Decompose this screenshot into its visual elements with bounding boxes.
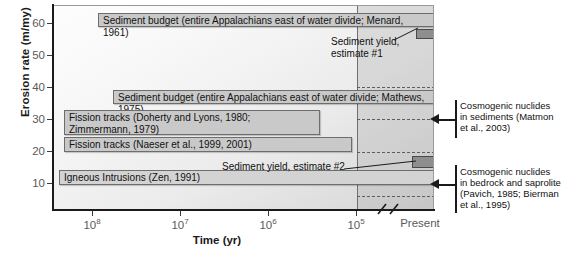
y-axis-line — [52, 4, 54, 211]
cosmo-bedrock-bracket — [455, 165, 457, 213]
x-tick-exp-1e6: 6 — [272, 217, 276, 226]
erosion-rate-vs-time-figure: Erosion rate (m/my) 60 50 40 30 20 10 Se… — [0, 0, 567, 257]
sediment-yield-estimate-2-label: Sediment yield, estimate #2 — [222, 161, 345, 173]
y-tick-label-30: 30 — [19, 114, 45, 124]
x-tick-label-1e6: 106 — [259, 217, 276, 231]
x-tick-base-1e7: 10 — [171, 219, 184, 231]
x-tick-label-1e8: 108 — [83, 217, 100, 231]
y-tick-label-60: 60 — [19, 18, 45, 28]
cosmo-sediments-label: Cosmogenic nuclides in sediments (Matmon… — [460, 100, 553, 133]
cosmo-bedrock-label: Cosmogenic nuclides in bedrock and sapro… — [460, 166, 561, 210]
x-tick-mark-1e7 — [180, 211, 181, 216]
x-tick-exp-1e7: 7 — [184, 217, 188, 226]
x-tick-exp-1e8: 8 — [96, 217, 100, 226]
cosmo-sediments-arrow-icon — [430, 112, 442, 126]
x-tick-label-present: Present — [400, 217, 440, 229]
estimate-1-leader-line — [392, 24, 424, 44]
x-axis-break-icon — [374, 200, 406, 216]
y-tick-label-40: 40 — [19, 82, 45, 92]
x-tick-exp-1e5: 5 — [360, 217, 364, 226]
x-tick-mark-1e8 — [92, 211, 93, 216]
x-tick-label-1e5: 105 — [347, 217, 364, 231]
x-axis-title: Time (yr) — [0, 234, 434, 246]
y-tick-label-20: 20 — [19, 146, 45, 156]
sediment-yield-estimate-1-label: Sediment yield, estimate #1 — [331, 36, 399, 59]
x-tick-mark-1e5 — [356, 211, 357, 216]
cosmo-sediments-bracket — [455, 100, 457, 138]
x-tick-label-1e7: 107 — [171, 217, 188, 231]
y-tick-label-50: 50 — [19, 50, 45, 60]
y-tick-label-10: 10 — [19, 178, 45, 188]
x-tick-base-1e8: 10 — [83, 219, 96, 231]
x-tick-base-1e6: 10 — [259, 219, 272, 231]
x-tick-base-1e5: 10 — [347, 219, 360, 231]
x-tick-mark-1e6 — [268, 211, 269, 216]
cosmo-bedrock-arrow-icon — [430, 177, 442, 191]
